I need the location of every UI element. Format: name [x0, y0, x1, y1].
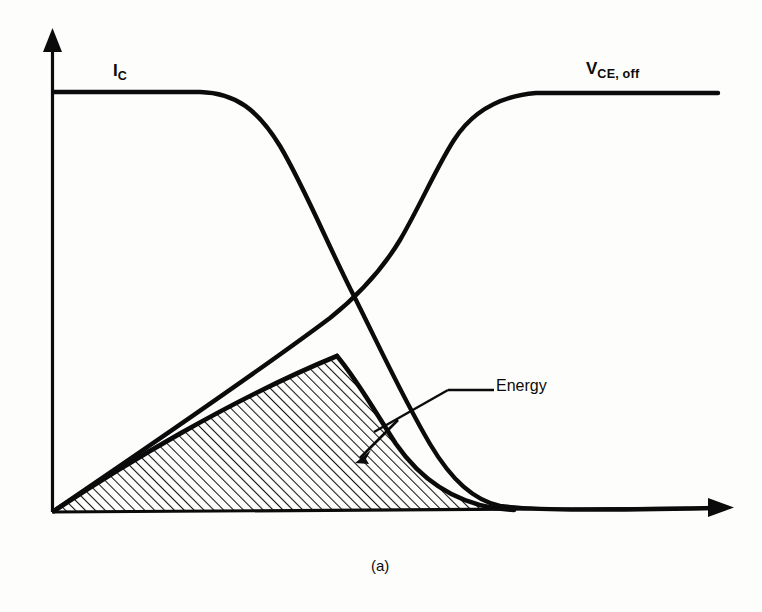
label-collector-emitter-voltage-subscript: CE, off: [597, 67, 639, 81]
label-energy: Energy: [496, 378, 547, 394]
figure-caption: (a): [371, 558, 389, 573]
label-collector-current-subscript: C: [118, 69, 127, 83]
figure-container: IC VCE, off Energy (a): [0, 0, 762, 612]
waveform-diagram: [0, 0, 762, 612]
label-collector-emitter-voltage-base: V: [586, 59, 597, 78]
label-collector-current: IC: [113, 62, 127, 79]
label-collector-emitter-voltage: VCE, off: [586, 60, 639, 77]
